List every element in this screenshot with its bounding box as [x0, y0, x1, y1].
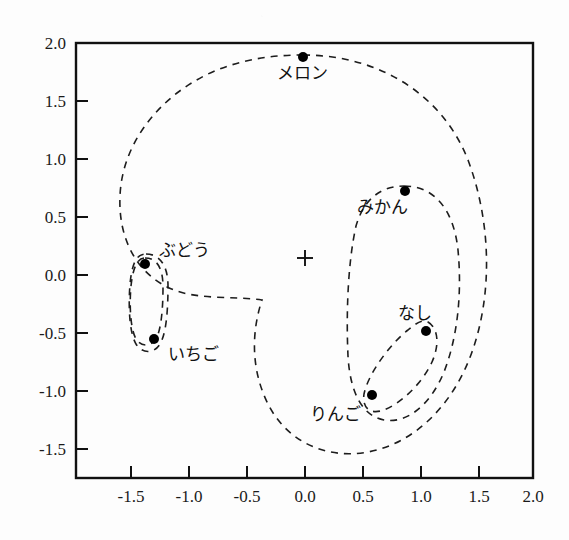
- x-tick-label: 0.0: [294, 487, 315, 506]
- x-tick-label: 0.5: [352, 487, 373, 506]
- point-label-nashi: なし: [398, 304, 432, 323]
- data-point-ringo[interactable]: [367, 390, 377, 400]
- data-point-budou[interactable]: [140, 259, 150, 269]
- point-label-budou: ぶどう: [159, 241, 210, 260]
- centroid-cross-icon: [297, 250, 313, 266]
- data-point-nashi[interactable]: [421, 326, 431, 336]
- y-tick-label: 1.5: [45, 92, 66, 111]
- x-axis-tick-labels: -1.5 -1.0 -0.5 0.0 0.5 1.0 1.5 2.0: [118, 487, 544, 506]
- data-point-melon[interactable]: [298, 52, 308, 62]
- x-tick-label: 1.0: [410, 487, 431, 506]
- cluster-contour-budou-ichigo-inner: [130, 258, 163, 345]
- x-axis-ticks: [131, 466, 533, 478]
- y-tick-label: 0.5: [45, 208, 66, 227]
- data-point-ichigo[interactable]: [149, 334, 159, 344]
- x-tick-label: -1.5: [118, 487, 145, 506]
- y-axis-tick-labels: 2.0 1.5 1.0 0.5 0.0 -0.5 -1.0 -1.5: [39, 34, 66, 459]
- x-tick-label: -0.5: [234, 487, 261, 506]
- y-axis-ticks: [76, 43, 88, 449]
- x-tick-label: 2.0: [522, 487, 543, 506]
- y-tick-label: -1.5: [39, 440, 66, 459]
- data-point-labels: メロン みかん ぶどう いちご なし りんご: [159, 64, 432, 424]
- plot-canvas: 2.0 1.5 1.0 0.5 0.0 -0.5 -1.0 -1.5 -1.5 …: [0, 0, 569, 540]
- point-label-melon: メロン: [277, 64, 328, 83]
- y-tick-label: 1.0: [45, 150, 66, 169]
- point-label-ichigo: いちご: [168, 345, 219, 364]
- scatter-plot-figure: 2.0 1.5 1.0 0.5 0.0 -0.5 -1.0 -1.5 -1.5 …: [0, 0, 569, 540]
- y-tick-label: -0.5: [39, 324, 66, 343]
- y-tick-label: 0.0: [45, 266, 66, 285]
- x-tick-label: -1.0: [176, 487, 203, 506]
- point-label-ringo: りんご: [310, 405, 361, 424]
- x-tick-label: 1.5: [468, 487, 489, 506]
- data-point-mikan[interactable]: [400, 186, 410, 196]
- y-tick-label: 2.0: [45, 34, 66, 53]
- point-label-mikan: みかん: [357, 198, 408, 217]
- y-tick-label: -1.0: [39, 382, 66, 401]
